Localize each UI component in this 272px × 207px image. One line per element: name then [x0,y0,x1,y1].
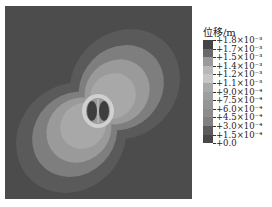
legend-swatch [203,109,213,118]
legend-label: +0.0 [216,139,237,148]
legend-swatch [203,74,213,83]
legend-swatch [203,49,213,58]
legend-swatch [203,92,213,101]
legend-swatch [203,135,213,144]
legend-swatch [203,117,213,126]
legend-swatch [203,83,213,92]
legend-swatch [203,100,213,109]
contour-plot [5,6,192,199]
legend-swatch [203,57,213,66]
legend-swatch [203,40,213,49]
contour-graphic [5,6,192,199]
legend: +1.8×10⁻³ +1.7×10⁻³ +1.5×10⁻³ +1.4×10⁻³ … [203,40,272,143]
legend-swatch [203,126,213,135]
legend-swatch [203,66,213,75]
legend-row: +1.5×10⁻⁴ [203,135,272,144]
